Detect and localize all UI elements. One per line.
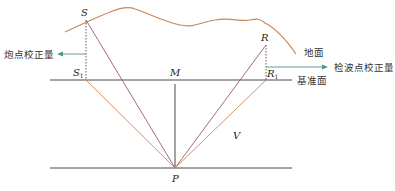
static-correction-diagram: S S1 M R R1 P V 炮点校正量 地面 检波点校正量 基准面 [0, 0, 395, 191]
ray-s-p [86, 20, 175, 168]
arrow-left-icon [57, 52, 63, 57]
label-r1: R1 [266, 68, 278, 80]
label-datum-plane: 基准面 [297, 75, 327, 86]
label-v: V [233, 130, 242, 141]
label-s1: S1 [73, 67, 84, 79]
label-ground-surface: 地面 [304, 47, 324, 58]
ray-r1-p [175, 80, 266, 168]
arrow-right-icon [322, 65, 328, 70]
ray-r-p [175, 45, 266, 168]
label-p: P [171, 173, 179, 184]
ground-surface-curve [65, 8, 296, 54]
label-receiver-correction: 检波点校正量 [334, 62, 394, 73]
label-shot-correction: 炮点校正量 [4, 49, 54, 60]
label-r: R [260, 32, 269, 43]
label-s: S [81, 7, 88, 18]
label-m: M [169, 67, 181, 78]
